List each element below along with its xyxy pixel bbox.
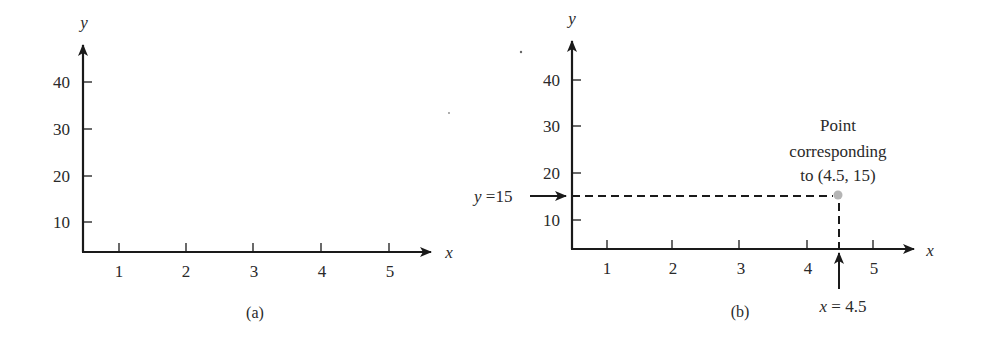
y-tick-label: 40 — [543, 71, 560, 90]
x-tick-label: 1 — [115, 262, 124, 281]
scan-speck — [448, 112, 450, 114]
y-tick-label: 40 — [53, 73, 70, 92]
x-tick-label: 1 — [603, 259, 612, 278]
x-marker-label: x = 4.5 — [819, 297, 867, 316]
point-label-line3: to (4.5, 15) — [800, 166, 876, 185]
x-ticks-a — [119, 243, 389, 252]
x-tick-label: 2 — [669, 259, 678, 278]
x-tick-label: 2 — [182, 262, 191, 281]
y-ticks-b — [572, 80, 581, 220]
x-axis-label-a: x — [444, 243, 453, 262]
data-point — [834, 191, 843, 200]
scan-speck — [520, 51, 522, 53]
x-tick-label: 5 — [870, 259, 879, 278]
point-label-line2: corresponding — [789, 142, 887, 161]
panel-caption-a: (a) — [246, 304, 264, 322]
figure-canvas: 10 20 30 40 1 2 3 4 5 y x (a) — [0, 0, 984, 342]
y-tick-label: 30 — [53, 120, 70, 139]
y-tick-label: 30 — [543, 117, 560, 136]
panel-b: 10 20 30 40 1 2 3 4 5 y x y =15 x = 4.5 … — [472, 9, 934, 321]
panel-a: 10 20 30 40 1 2 3 4 5 y x (a) — [53, 13, 453, 322]
y-tick-label: 10 — [543, 211, 560, 230]
point-label-line1: Point — [820, 116, 856, 135]
x-tick-label: 3 — [737, 259, 746, 278]
y-tick-label: 20 — [543, 164, 560, 183]
panel-caption-b: (b) — [731, 303, 750, 321]
x-tick-label: 3 — [250, 262, 259, 281]
x-tick-label: 4 — [804, 259, 813, 278]
x-axis-label-b: x — [925, 241, 934, 260]
x-ticks-b — [607, 240, 873, 249]
y-tick-label: 10 — [53, 213, 70, 232]
y-tick-label: 20 — [53, 167, 70, 186]
x-tick-label: 4 — [318, 262, 327, 281]
x-tick-label: 5 — [386, 262, 395, 281]
y-axis-label-a: y — [78, 13, 88, 32]
y-marker-label: y =15 — [472, 187, 512, 206]
y-ticks-a — [83, 82, 92, 222]
y-axis-label-b: y — [566, 9, 576, 28]
